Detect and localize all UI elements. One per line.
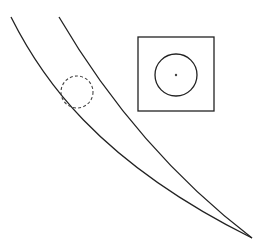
band-left-curve [11, 17, 252, 238]
diagram-svg [0, 0, 261, 244]
band-right-curve [59, 17, 252, 238]
diagram-canvas [0, 0, 261, 244]
dashed-highlight-circle [61, 76, 93, 108]
inset-center-dot [175, 74, 177, 76]
